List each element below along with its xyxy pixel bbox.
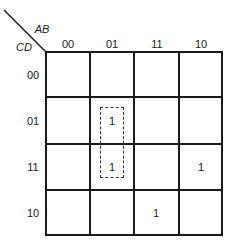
cell-value-r2-c3: 1 <box>191 161 211 173</box>
col-header: 11 <box>144 38 170 50</box>
grid-line <box>45 189 223 191</box>
row-header: 11 <box>22 161 44 173</box>
row-header: 00 <box>22 69 44 81</box>
col-header: 01 <box>99 38 125 50</box>
col-header: 10 <box>188 38 214 50</box>
grid-line <box>45 143 223 145</box>
row-header: 10 <box>22 207 44 219</box>
row-variable-label: CD <box>14 41 34 53</box>
row-header: 01 <box>22 115 44 127</box>
col-variable-label: AB <box>32 23 52 35</box>
cell-value-r3-c2: 1 <box>146 207 166 219</box>
grid-line <box>45 96 223 98</box>
dashed-group-box <box>100 107 124 178</box>
col-header: 00 <box>55 38 81 50</box>
